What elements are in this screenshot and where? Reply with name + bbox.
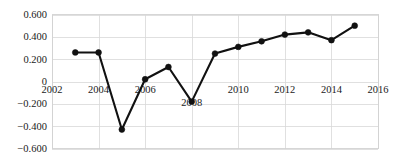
data-point-2015 [352,23,358,29]
y-tick-label-2: 0.200 [23,54,47,65]
line-chart: 0.6000.4000.2000−0.200−0.400−0.600 20022… [0,0,398,161]
x-tick-label-1: 2004 [88,84,110,95]
data-point-2014 [329,37,335,43]
data-point-2007 [166,64,172,70]
x-tick-label-7: 2016 [368,84,389,95]
y-tick-label-5: −0.400 [17,121,47,132]
data-point-2003 [72,50,78,56]
chart-canvas: 0.6000.4000.2000−0.200−0.400−0.600 20022… [0,0,398,161]
x-tick-label-0: 2002 [42,84,63,95]
data-point-2004 [96,50,102,56]
chart-background [0,0,398,161]
data-point-2005 [119,127,125,133]
y-tick-label-4: −0.200 [17,98,47,109]
y-tick-label-6: −0.600 [17,143,47,154]
data-point-2011 [259,38,265,44]
y-tick-label-1: 0.400 [23,31,47,42]
x-tick-label-6: 2014 [321,84,343,95]
data-point-2012 [282,32,288,38]
x-tick-label-5: 2012 [274,84,295,95]
data-point-2008 [189,99,195,105]
data-point-2006 [142,76,148,82]
x-tick-label-4: 2010 [228,84,249,95]
data-point-2013 [305,29,311,35]
data-point-2010 [235,44,241,50]
y-tick-label-0: 0.600 [23,9,47,20]
data-point-2009 [212,51,218,57]
